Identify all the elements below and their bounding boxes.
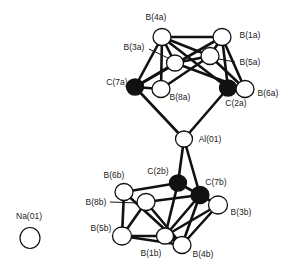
atom-label-b5a: B(5a)	[240, 58, 261, 67]
atom-c2a-icon	[220, 80, 237, 96]
atom-label-b4a: B(4a)	[146, 13, 167, 22]
atom-b6b-icon	[115, 184, 133, 201]
atom-label-b4b: B(4b)	[193, 250, 214, 259]
atom-label-b3a: B(3a)	[124, 43, 145, 52]
atom-b6a-icon	[236, 81, 254, 98]
atom-b8b-icon	[137, 194, 155, 211]
atom-label-b6b: B(6b)	[104, 171, 125, 180]
atom-b5b-icon	[113, 227, 132, 245]
atom-label-al01: Al(01)	[199, 135, 222, 144]
atom-label-c7a: C(7a)	[106, 78, 127, 87]
atom-c7b-icon	[191, 187, 209, 204]
atom-b4b-icon	[173, 237, 191, 254]
atom-b3a-icon	[167, 55, 184, 71]
atom-b1a-icon	[213, 29, 231, 46]
atom-b3b-icon	[209, 196, 228, 214]
atom-b5a-icon	[201, 48, 219, 65]
atom-al01-icon	[176, 131, 193, 147]
atom-label-b1b: B(1b)	[141, 249, 162, 258]
atom-label-b5b: B(5b)	[91, 224, 112, 233]
molecular-structure-figure: B(4a)B(1a)B(3a)B(5a)C(7a)B(8a)C(2a)B(6a)…	[0, 0, 292, 274]
atom-b4a-icon	[153, 29, 171, 46]
atom-label-b6a: B(6a)	[258, 89, 279, 98]
atom-label-b8b: B(8b)	[86, 198, 107, 207]
atom-label-c2b: C(2b)	[147, 167, 168, 176]
structure-drawing	[0, 0, 292, 274]
atom-label-c2a: C(2a)	[225, 99, 246, 108]
atom-label-na01: Na(01)	[16, 212, 42, 221]
atom-c2b-icon	[170, 175, 187, 191]
atom-label-c7b: C(7b)	[205, 178, 226, 187]
atom-na01-icon	[20, 228, 40, 249]
atom-label-b3b: B(3b)	[231, 208, 252, 217]
atom-c7a-icon	[127, 79, 144, 95]
atom-label-b8a: B(8a)	[170, 93, 191, 102]
atom-label-b1a: B(1a)	[240, 31, 261, 40]
atom-b1b-icon	[157, 228, 174, 244]
atom-b8a-icon	[152, 81, 170, 98]
